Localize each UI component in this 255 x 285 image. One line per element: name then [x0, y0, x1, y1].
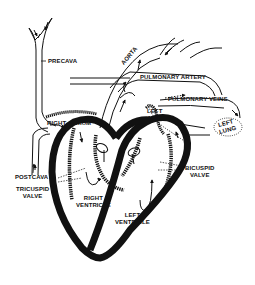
label-bicuspid-valve-line1: BICUSPID: [185, 165, 214, 172]
label-precava: PRECAVA: [48, 58, 77, 65]
label-tricuspid-valve: TRICUSPID VALVE: [16, 186, 49, 199]
heart-diagram: [0, 0, 255, 285]
label-left-atrium: LEFT ATRIUM: [147, 108, 170, 121]
label-tricuspid-valve-line1: TRICUSPID: [16, 186, 49, 193]
postcava-vessel: [32, 128, 50, 175]
label-left-ventricle-line2: VENTRICLE: [115, 219, 150, 226]
label-pulmonary-artery: PULMONARY ARTERY: [140, 74, 206, 81]
label-right-ventricle: RIGHT VENTRICLE: [76, 195, 111, 208]
label-postcava: POSTCAVA: [15, 174, 48, 181]
label-left-ventricle: LEFT VENTRICLE: [115, 212, 150, 225]
label-bicuspid-valve: BICUSPID VALVE: [185, 165, 214, 178]
label-tricuspid-valve-line2: VALVE: [16, 193, 49, 200]
label-bicuspid-valve-line2: VALVE: [185, 172, 214, 179]
label-left-atrium-line2: ATRIUM: [147, 115, 170, 122]
label-right-ventricle-line2: VENTRICLE: [76, 202, 111, 209]
label-pulmonary-veins: PULMONARY VEINS: [168, 96, 228, 103]
aortic-arch-branches: [160, 38, 222, 58]
label-right-atrium: RIGHT ATRIUM: [47, 120, 91, 127]
